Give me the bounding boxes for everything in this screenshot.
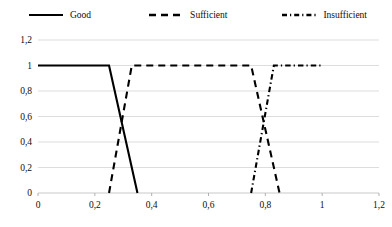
y-axis-labels: 00,20,40,60,811,2 <box>20 35 32 198</box>
x-tick-label: 1 <box>320 200 325 210</box>
y-tick-label: 0,6 <box>20 112 32 122</box>
y-tick-label: 1 <box>27 61 32 71</box>
plot-area: 00,20,40,60,811,2 00,20,40,60,811,2 <box>0 0 392 227</box>
gridlines <box>38 40 379 193</box>
y-tick-label: 0,2 <box>20 163 32 173</box>
y-tick-label: 1,2 <box>20 35 32 45</box>
series-line-sufficient <box>109 66 280 194</box>
y-tick-label: 0,8 <box>20 86 32 96</box>
x-tick-label: 0,4 <box>146 200 158 210</box>
y-tick-label: 0 <box>27 188 32 198</box>
x-axis-labels: 00,20,40,60,811,2 <box>36 200 386 210</box>
x-tick-label: 0,8 <box>259 200 271 210</box>
series-lines <box>38 66 322 194</box>
y-tick-label: 0,4 <box>20 137 32 147</box>
x-tick-label: 0,2 <box>89 200 101 210</box>
x-tick-label: 0 <box>36 200 41 210</box>
x-tick-label: 0,6 <box>203 200 215 210</box>
series-line-insufficient <box>251 66 322 194</box>
membership-function-chart: Good Sufficient Insufficient 00,20,40,60… <box>0 0 392 227</box>
series-line-good <box>38 66 137 194</box>
x-tick-label: 1,2 <box>373 200 385 210</box>
